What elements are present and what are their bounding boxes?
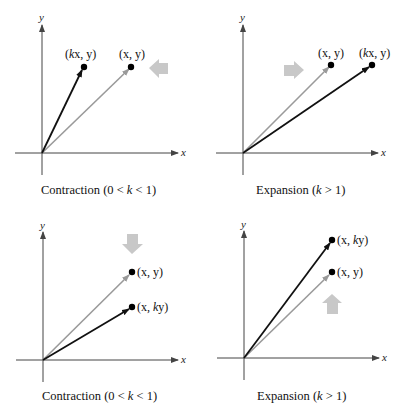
panel-vertical-contraction: x y (x, y) (x, ky) Contraction (0 < k < … xyxy=(16,219,186,403)
transformed-point xyxy=(129,304,135,310)
transformed-point xyxy=(81,64,87,70)
original-point-label: (x, y) xyxy=(119,47,145,61)
original-point-label: (x, y) xyxy=(337,265,363,279)
original-vector xyxy=(42,69,129,153)
transformed-point-label: (x, ky) xyxy=(137,300,168,314)
transformed-vector xyxy=(244,243,330,358)
original-point xyxy=(328,62,334,68)
panel-horizontal-expansion: x y (x, y) (kx, y) Expansion (k > 1) xyxy=(216,11,390,197)
x-axis-label: x xyxy=(180,353,186,365)
x-axis-label: x xyxy=(381,351,387,363)
down-direction-arrow-icon xyxy=(122,234,143,254)
original-point xyxy=(329,269,335,275)
transformed-point-label: (kx, y) xyxy=(65,47,96,61)
x-axis-label: x xyxy=(180,146,186,158)
transformations-diagram: x y (kx, y) (x, y) Contraction (0 < k < … xyxy=(0,0,405,417)
up-direction-arrow-icon xyxy=(322,294,342,314)
original-point-label: (x, y) xyxy=(137,265,163,279)
caption: Expansion (k > 1) xyxy=(256,183,345,197)
caption: Contraction (0 < k < 1) xyxy=(41,183,156,197)
transformed-vector xyxy=(42,70,82,153)
transformed-point xyxy=(329,237,335,243)
panel-vertical-expansion: x y (x, ky) (x, y) Expansion (k > 1) xyxy=(217,218,387,403)
right-direction-arrow-icon xyxy=(284,61,304,79)
transformed-point-label: (kx, y) xyxy=(359,46,390,60)
transformed-vector xyxy=(243,67,369,153)
original-point xyxy=(129,269,135,275)
transformed-point xyxy=(369,62,375,68)
y-axis-label: y xyxy=(240,218,246,230)
original-point-label: (x, y) xyxy=(318,46,344,60)
original-vector xyxy=(244,275,329,358)
transformed-point-label: (x, ky) xyxy=(337,233,368,247)
y-axis-label: y xyxy=(38,11,44,23)
y-axis-label: y xyxy=(39,219,45,231)
x-axis-label: x xyxy=(380,146,386,158)
caption: Expansion (k > 1) xyxy=(257,389,346,403)
original-vector xyxy=(243,67,329,153)
y-axis-label: y xyxy=(239,11,245,23)
panel-horizontal-contraction: x y (kx, y) (x, y) Contraction (0 < k < … xyxy=(15,11,186,197)
left-direction-arrow-icon xyxy=(149,59,168,78)
caption: Contraction (0 < k < 1) xyxy=(42,389,157,403)
original-point xyxy=(128,64,134,70)
